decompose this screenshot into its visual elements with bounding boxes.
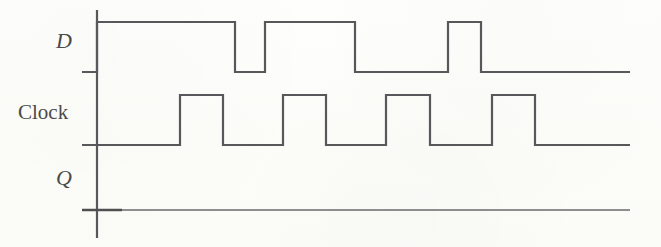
signal-label-clock: Clock <box>18 102 68 123</box>
waveform-d <box>82 22 630 72</box>
timing-diagram-canvas <box>0 0 661 247</box>
signal-label-d: D <box>56 30 72 52</box>
waveform-clock <box>82 95 630 145</box>
timing-diagram-figure: D Clock Q <box>0 0 661 247</box>
signal-label-q: Q <box>56 167 72 189</box>
